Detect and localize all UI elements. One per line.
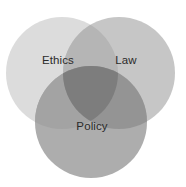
venn-canvas [0,0,186,187]
venn-diagram: Ethics Law Policy [0,0,186,187]
